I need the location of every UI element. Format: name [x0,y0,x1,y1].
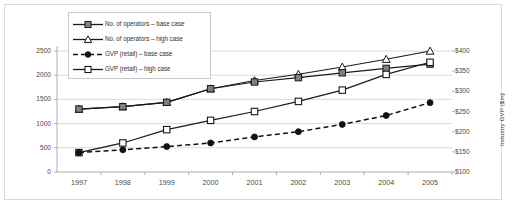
legend-label: No. of operators – base case [105,20,184,27]
legend-swatch-filled-circle-icon [72,47,104,62]
legend-label: No. of operators – high case [105,35,183,42]
chart-canvas: No. of operators Industry GVP ($m) 05001… [0,0,514,212]
legend-swatch-filled-square-icon [72,17,104,32]
legend-item: GVP (retail) – base case [69,47,210,62]
legend-swatch-open-triangle-icon [72,32,104,47]
legend-item: No. of operators – high case [69,32,210,47]
legend-item: GVP (retail) – high case [69,62,210,77]
legend-swatch-open-square-icon [72,62,104,77]
legend-item: No. of operators – base case [69,17,210,32]
chart-legend: No. of operators – base caseNo. of opera… [68,12,211,79]
legend-label: GVP (retail) – high case [105,65,171,72]
legend-label: GVP (retail) – base case [105,50,172,57]
